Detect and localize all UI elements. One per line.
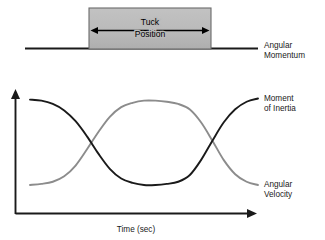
x-axis-title: Time (sec) [117,225,156,234]
moment-of-inertia-label-line1: Moment [264,94,294,103]
legend-label-moment-of-inertia: Moment of Inertia [264,94,296,113]
angular-velocity-label-line2: Velocity [264,190,293,199]
legend-label-angular-velocity: Angular Velocity [264,180,293,199]
angular-momentum-label-line1: Angular [264,41,292,50]
angular-momentum-label-line2: Momentum [264,51,305,60]
biomechanics-figure: Tuck Position Angular Momentum Moment of… [0,0,325,240]
tuck-label-line2: Position [135,29,166,39]
angular-velocity-label-line1: Angular [264,180,292,189]
tuck-label-line1: Tuck [141,17,160,27]
moment-of-inertia-label-line2: of Inertia [264,104,296,113]
